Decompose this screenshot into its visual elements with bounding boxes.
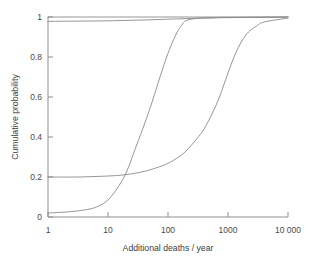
y-tick-label-0.6: 0.6	[30, 92, 42, 102]
x-tick-label-10: 10	[103, 225, 113, 235]
y-axis-tick-labels: 00.20.40.60.81	[30, 12, 42, 222]
chart-figure: 110100100010 000 00.20.40.60.81 Addition…	[0, 0, 317, 265]
y-tick-label-0.8: 0.8	[30, 52, 42, 62]
x-tick-label-1: 1	[46, 225, 51, 235]
cumulative-probability-chart: 110100100010 000 00.20.40.60.81 Addition…	[0, 0, 317, 265]
x-tick-label-10000: 10 000	[275, 225, 301, 235]
series-steep-sigmoid-curve	[48, 17, 288, 213]
y-axis-title: Cumulative probability	[10, 74, 20, 160]
y-tick-label-0: 0	[37, 212, 42, 222]
y-tick-label-0.4: 0.4	[30, 132, 42, 142]
x-tick-label-100: 100	[161, 225, 175, 235]
x-axis-title: Additional deaths / year	[123, 243, 214, 253]
series-shallow-sigmoid-curve	[48, 18, 288, 177]
y-axis-ticks	[48, 17, 53, 217]
x-axis-tick-labels: 110100100010 000	[46, 225, 302, 235]
y-tick-label-1: 1	[37, 12, 42, 22]
x-tick-label-1000: 1000	[219, 225, 238, 235]
x-axis-ticks	[48, 212, 288, 217]
chart-series-paths	[48, 17, 288, 213]
axis-lines	[48, 17, 288, 217]
y-tick-label-0.2: 0.2	[30, 172, 42, 182]
